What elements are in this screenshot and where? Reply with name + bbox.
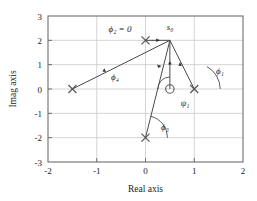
xtick-label-3: 1: [192, 166, 197, 176]
x-axis-title: Real axis: [128, 184, 163, 194]
phi2-label: ϕ₂ = 0: [109, 24, 132, 34]
xtick-label-4: 2: [241, 166, 246, 176]
y-axis-title: Imag axis: [8, 70, 18, 108]
psi1-label: ψ₁: [181, 98, 190, 108]
plot-canvas: -2 -1 0 1 2 3 2 1 0 -1 -2 -3 Real axis I…: [0, 0, 257, 201]
xtick-label-2: 0: [143, 166, 148, 176]
x-tick-labels: -2 -1 0 1 2: [44, 166, 245, 176]
ytick-label-3: 0: [38, 85, 43, 95]
ytick-label-6: -3: [35, 158, 43, 168]
ytick-label-5: -2: [35, 133, 43, 143]
ytick-label-1: 2: [38, 36, 43, 46]
phi4-label: ϕ₄: [111, 72, 119, 82]
xtick-label-1: -1: [93, 166, 101, 176]
phi1-label: ϕ₁: [216, 66, 224, 76]
xtick-label-0: -2: [44, 166, 52, 176]
pole-zero-plot: -2 -1 0 1 2 3 2 1 0 -1 -2 -3 Real axis I…: [0, 0, 257, 201]
phi3-label: ϕ₃: [161, 122, 169, 132]
s0-label: s₀: [167, 22, 174, 32]
ytick-label-4: -1: [35, 109, 43, 119]
ytick-label-0: 3: [38, 12, 43, 22]
ytick-label-2: 1: [38, 60, 43, 70]
y-tick-labels: 3 2 1 0 -1 -2 -3: [35, 12, 43, 168]
